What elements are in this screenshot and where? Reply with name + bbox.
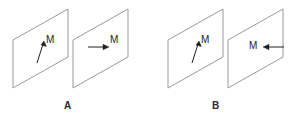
vector-label-m-b2: M [249, 41, 257, 51]
vector-label-m-b1: M [201, 35, 209, 45]
vector-label-m-a2: M [110, 35, 118, 45]
plane-a-1 [13, 9, 68, 88]
magnetization-diagram: M M M M A B [0, 0, 308, 123]
plane-b-1 [168, 9, 223, 88]
panel-a [13, 9, 128, 88]
plane-a-2 [73, 9, 128, 88]
diagram-canvas [0, 0, 308, 123]
panel-caption-a: A [64, 101, 71, 111]
panel-caption-b: B [212, 101, 219, 111]
vector-label-m-a1: M [46, 35, 54, 45]
panel-b [168, 9, 284, 88]
